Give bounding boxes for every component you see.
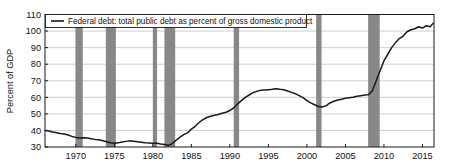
y-tick-label-90: 90 <box>31 43 41 53</box>
y-axis-label: Percent of GDP <box>5 49 15 113</box>
legend-entry-label: Federal debt: total public debt as perce… <box>68 17 313 26</box>
federal-debt-line-chart: 30405060708090100110 1970197519801985199… <box>0 0 449 168</box>
x-tick-label-1970: 1970 <box>66 151 86 161</box>
recession-band-0 <box>75 15 82 148</box>
x-tick-label-1980: 1980 <box>143 151 163 161</box>
x-tick-label-1990: 1990 <box>220 151 240 161</box>
y-tick-label-50: 50 <box>31 109 41 119</box>
recession-band-6 <box>368 15 380 148</box>
y-tick-label-30: 30 <box>31 142 41 152</box>
y-tick-label-70: 70 <box>31 76 41 86</box>
x-tick-label-1985: 1985 <box>181 151 201 161</box>
recession-band-2 <box>153 15 157 148</box>
chart-container: 30405060708090100110 1970197519801985199… <box>0 0 449 168</box>
legend: Federal debt: total public debt as perce… <box>46 15 314 28</box>
y-tick-label-40: 40 <box>31 126 41 136</box>
y-tick-label-100: 100 <box>26 26 41 36</box>
y-tick-label-60: 60 <box>31 93 41 103</box>
x-tick-label-1995: 1995 <box>258 151 278 161</box>
x-tick-label-1975: 1975 <box>104 151 124 161</box>
recession-band-3 <box>164 15 175 148</box>
x-tick-label-2015: 2015 <box>412 151 432 161</box>
recession-band-1 <box>106 15 116 148</box>
recession-band-5 <box>316 15 321 148</box>
x-tick-label-2010: 2010 <box>374 151 394 161</box>
x-tick-label-2000: 2000 <box>297 151 317 161</box>
recession-band-4 <box>234 15 239 148</box>
y-tick-label-80: 80 <box>31 59 41 69</box>
y-tick-label-110: 110 <box>26 10 41 20</box>
x-tick-label-2005: 2005 <box>335 151 355 161</box>
